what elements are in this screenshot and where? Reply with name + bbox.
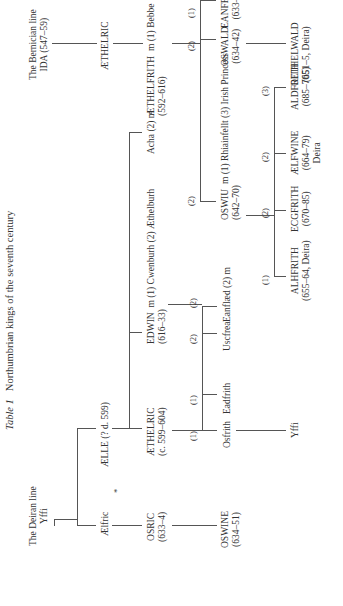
oswiu: OSWIU m (1) Rhiainfellt (3) Irish Prince… bbox=[220, 53, 242, 220]
eanflaed: Eanflæd (2) m bbox=[222, 267, 233, 322]
table-caption: Northumbrian kings of the seventh centur… bbox=[4, 211, 15, 392]
asterisk-marker: * bbox=[112, 489, 122, 493]
osric: OSRIC (633–4) bbox=[146, 512, 168, 542]
eadfrith: Eadfrith bbox=[222, 383, 233, 414]
deiran-heading: The Deiran line Yffi bbox=[28, 486, 50, 546]
aelfric: Ælfric bbox=[100, 512, 111, 536]
aethelric-bernicia: ÆTHELRIC bbox=[100, 21, 111, 70]
aethelric-deira: ÆTHELRIC (c. 599–604) bbox=[146, 407, 168, 456]
edwin: EDWIN m (1) Cwenburh (2) Æthelburh (616–… bbox=[146, 189, 168, 344]
yffi-children-bar bbox=[77, 429, 78, 526]
acha: Acha (2) m bbox=[146, 111, 157, 154]
ecgfrith: ECGFRITH (670–85) bbox=[290, 186, 312, 232]
aethelfrith-children-bar bbox=[200, 0, 201, 202]
yffi: Yffi bbox=[39, 486, 50, 546]
oswine: OSWINE (634–51) bbox=[220, 511, 242, 548]
yffi-son-of-osfrith: Yffi bbox=[290, 422, 301, 438]
alhfrith: ALHFRITH (655–64, Deira) bbox=[290, 240, 312, 301]
aethelric-edwin-children-bar bbox=[202, 307, 203, 431]
osfrith: Osfrith bbox=[222, 421, 233, 448]
aethelfrith: ÆTHELFRITH m (1) Bebbe (592–616) bbox=[146, 4, 168, 116]
oswiu-children-bar bbox=[274, 87, 275, 277]
table-title: Table 1Northumbrian kings of the seventh… bbox=[4, 211, 15, 430]
oswiu-marriage: m (1) Rhiainfellt (3) Irish Princess bbox=[220, 53, 230, 184]
aelle: ÆLLE (? d. 599) bbox=[100, 402, 111, 467]
bernician-heading: The Bernician line IDA (547–59) bbox=[28, 9, 50, 80]
yffi-connector bbox=[54, 519, 77, 520]
uscfrea: Uscfrea bbox=[222, 321, 233, 351]
aldfrith: ALDFRITH (685–705) bbox=[290, 63, 312, 110]
edwin-marriage: m (1) Cwenburh (2) Æthelburh bbox=[146, 189, 156, 308]
table-label: Table 1 bbox=[4, 399, 15, 430]
eanfrith: EANFRITH (633–4) bbox=[220, 0, 242, 28]
aethelfrith-marriage: m (1) Bebbe bbox=[146, 4, 156, 52]
genealogy-table: Table 1Northumbrian kings of the seventh… bbox=[0, 0, 343, 606]
aelfwine: ÆLFWINE (664–79) Deira bbox=[290, 131, 323, 175]
ida: IDA (547–59) bbox=[39, 9, 50, 80]
aelle-children-bar bbox=[129, 333, 130, 429]
